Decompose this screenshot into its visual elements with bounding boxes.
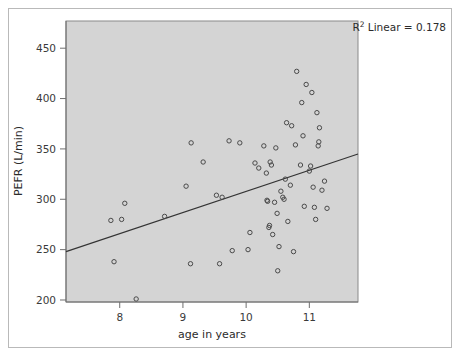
x-axis-ticks: 891011 <box>116 302 316 323</box>
x-tick-label: 11 <box>303 311 316 323</box>
x-tick-label: 8 <box>116 311 123 323</box>
y-tick-label: 350 <box>36 143 56 155</box>
y-tick-label: 250 <box>36 243 56 255</box>
scatter-plot-figure: 200250300350400450 891011 PEFR (L/min) a… <box>0 0 461 357</box>
y-tick-label: 200 <box>36 294 56 306</box>
y-tick-label: 300 <box>36 193 56 205</box>
y-axis-title: PEFR (L/min) <box>12 126 25 196</box>
r-squared-suffix: Linear = 0.178 <box>364 21 446 33</box>
x-axis-title: age in years <box>178 328 246 341</box>
chart-canvas: 200250300350400450 891011 PEFR (L/min) a… <box>0 0 461 357</box>
plot-area-background <box>66 21 358 302</box>
y-tick-label: 400 <box>36 92 56 104</box>
x-tick-label: 10 <box>239 311 252 323</box>
y-tick-label: 450 <box>36 42 56 54</box>
r-squared-prefix: R <box>352 21 359 33</box>
y-axis-ticks: 200250300350400450 <box>36 42 66 306</box>
x-tick-label: 9 <box>180 311 187 323</box>
r-squared-annotation: R2 Linear = 0.178 <box>352 20 446 33</box>
